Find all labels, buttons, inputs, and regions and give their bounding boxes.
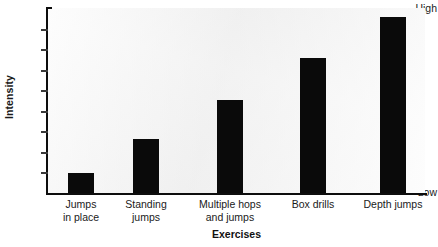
y-axis-tick — [41, 152, 48, 154]
bar — [217, 100, 243, 193]
bar — [380, 17, 406, 193]
x-axis-category-label-line: and jumps — [185, 211, 275, 224]
y-axis-tick — [41, 172, 48, 174]
x-axis-category-label: Multiple hopsand jumps — [185, 198, 275, 223]
bar — [68, 173, 94, 193]
x-axis-category-label: Box drills — [268, 198, 358, 211]
x-axis-category-label: Depth jumps — [348, 198, 438, 211]
x-axis-line — [46, 193, 427, 195]
x-axis-title: Exercises — [48, 228, 425, 240]
y-axis-tick — [41, 70, 48, 72]
bar — [300, 58, 326, 193]
y-axis-tick — [41, 49, 48, 51]
y-axis-tick — [41, 131, 48, 133]
y-axis-tick — [41, 111, 48, 113]
bars-group — [48, 8, 425, 193]
x-axis-category-label: Standingjumps — [101, 198, 191, 223]
x-axis-category-label-line: Multiple hops — [185, 198, 275, 211]
x-axis-category-label-line: Box drills — [268, 198, 358, 211]
x-axis-category-label-line: Standing — [101, 198, 191, 211]
bar — [133, 139, 159, 193]
y-axis-title: Intensity — [0, 0, 18, 193]
x-axis-category-label-line: jumps — [101, 211, 191, 224]
y-axis-title-text: Intensity — [3, 74, 15, 118]
y-axis-tick — [41, 29, 48, 31]
y-axis-tick — [41, 90, 48, 92]
x-axis-category-label-line: Depth jumps — [348, 198, 438, 211]
